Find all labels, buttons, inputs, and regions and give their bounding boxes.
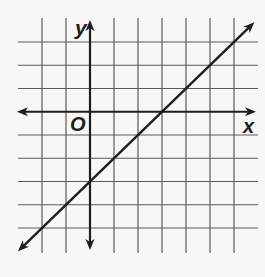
y-axis-label: y bbox=[75, 17, 87, 38]
plotted-line bbox=[18, 22, 254, 251]
line-y-equals-x-minus-3 bbox=[22, 26, 250, 247]
coordinate-plane bbox=[0, 0, 265, 277]
x-axis-label: x bbox=[243, 116, 254, 136]
origin-label: O bbox=[70, 114, 86, 134]
